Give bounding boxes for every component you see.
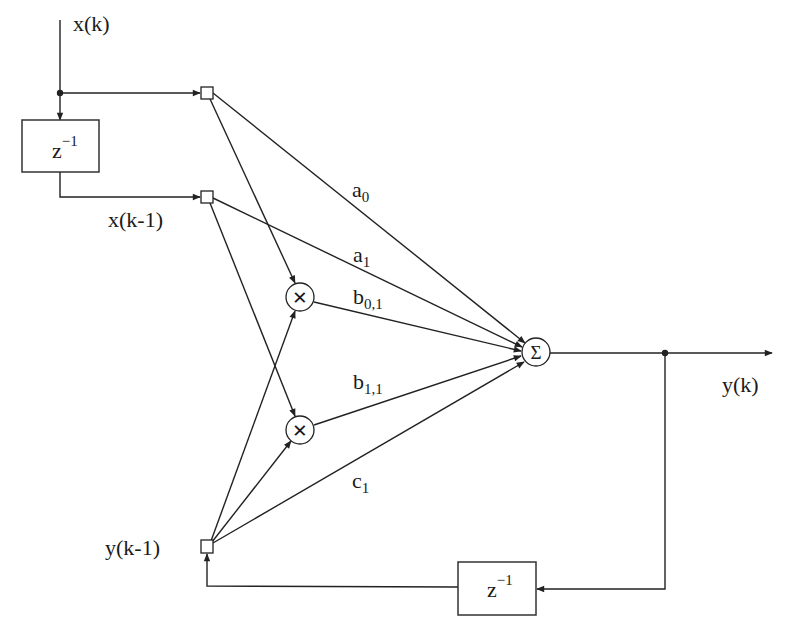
feedback-wire-in — [537, 353, 665, 589]
edge-yk1-to-mult-lower — [212, 441, 291, 542]
edge-b01 — [314, 302, 521, 351]
weight-label-b11: b1,1 — [353, 369, 383, 397]
label-y-k: y(k) — [722, 372, 759, 397]
weight-label-a0: a0 — [352, 177, 369, 205]
delay-block-feedback — [458, 562, 536, 615]
edge-a1 — [213, 198, 522, 347]
multiplier-upper: × — [286, 283, 314, 312]
sigma-icon: Σ — [530, 342, 541, 363]
multiplier-lower: × — [286, 416, 314, 445]
label-y-k-1: y(k-1) — [105, 535, 160, 560]
volterra-network-diagram: z−1 x(k) x(k-1) y(k-1) × × Σ a0 a1 b0, — [0, 0, 789, 631]
weight-label-c1: c1 — [352, 468, 369, 496]
multiply-icon: × — [293, 283, 308, 312]
edge-yk1-to-mult-upper — [211, 311, 295, 541]
edge-b11 — [314, 356, 521, 425]
label-x-k: x(k) — [73, 11, 110, 36]
node-y-k-1 — [201, 540, 213, 553]
node-x-k — [201, 87, 213, 99]
node-x-k-1 — [201, 191, 213, 203]
label-x-k-1: x(k-1) — [108, 207, 163, 232]
multiply-icon: × — [293, 416, 308, 445]
edge-xk1-to-mult-lower — [210, 203, 295, 416]
summer-node: Σ — [522, 338, 550, 366]
edge-xk-to-mult-upper — [210, 99, 295, 283]
weight-label-b01: b0,1 — [353, 284, 383, 312]
feedback-wire-out — [207, 554, 458, 587]
weight-label-a1: a1 — [353, 242, 370, 270]
delay-to-node-wire — [60, 172, 200, 197]
